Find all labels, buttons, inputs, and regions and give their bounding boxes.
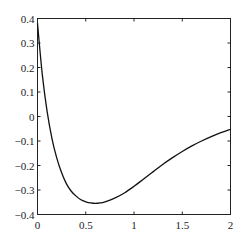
y-tick-label: 0.2 [21,62,35,74]
y-tick-label: 0.3 [21,37,35,49]
y-tick-label: −0.3 [15,184,35,196]
y-tick-label: −0.2 [15,160,35,172]
x-axis: 00.511.52 [35,19,234,231]
data-line [38,23,231,203]
y-tick-label: −0.4 [15,209,35,221]
x-tick-label: 1 [131,219,137,231]
y-tick-label: 0.4 [21,13,35,25]
x-tick-label: 0.5 [79,219,93,231]
y-tick-label: 0.1 [21,86,35,98]
y-tick-label: −0.1 [15,135,35,147]
line-chart: −0.4−0.3−0.2−0.100.10.20.30.4 00.511.52 [0,0,243,235]
y-axis: −0.4−0.3−0.2−0.100.10.20.30.4 [15,13,231,221]
x-tick-label: 0 [35,219,41,231]
x-tick-label: 2 [228,219,234,231]
x-tick-label: 1.5 [175,219,189,231]
y-tick-label: 0 [29,111,35,123]
